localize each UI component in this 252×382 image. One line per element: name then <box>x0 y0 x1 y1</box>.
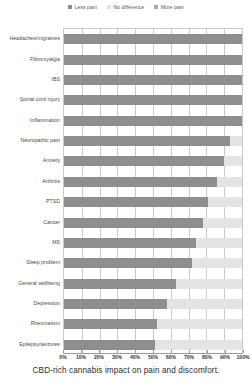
chart-figure: Less painNo differenceMore pain Headache… <box>0 0 252 382</box>
legend-item[interactable]: More pain <box>154 4 184 10</box>
x-tick-mark <box>153 350 154 353</box>
stacked-bar <box>64 55 242 65</box>
stacked-bar <box>64 197 242 207</box>
bar-row[interactable] <box>64 314 242 334</box>
x-tick-mark <box>243 350 244 353</box>
stacked-bar <box>64 177 242 187</box>
stacked-bar <box>64 258 242 268</box>
bar-segment-less-pain[interactable] <box>64 299 167 309</box>
bar-row[interactable] <box>64 70 242 90</box>
bar-segment-no-difference[interactable] <box>196 238 242 248</box>
bar-row[interactable] <box>64 212 242 232</box>
bar-row[interactable] <box>64 131 242 151</box>
bar-row[interactable] <box>64 151 242 171</box>
bar-segment-less-pain[interactable] <box>64 75 242 85</box>
bar-segment-less-pain[interactable] <box>64 34 242 44</box>
x-tick-label: 40% <box>130 354 140 360</box>
bar-segment-less-pain[interactable] <box>64 156 224 166</box>
bar-row[interactable] <box>64 49 242 69</box>
x-tick-mark <box>81 350 82 353</box>
category-label: Epilepsy/seizures <box>0 341 60 347</box>
square-swatch-icon <box>68 5 72 9</box>
stacked-bar <box>64 136 242 146</box>
bar-row[interactable] <box>64 274 242 294</box>
bar-row[interactable] <box>64 253 242 273</box>
bar-segment-less-pain[interactable] <box>64 218 203 228</box>
x-tick-mark <box>135 350 136 353</box>
category-label: Rheumatism <box>0 320 60 326</box>
bar-segment-no-difference[interactable] <box>224 156 242 166</box>
bar-segment-no-difference[interactable] <box>217 177 242 187</box>
category-label: IBS <box>0 76 60 82</box>
square-swatch-icon <box>154 5 158 9</box>
bar-segment-no-difference[interactable] <box>176 279 242 289</box>
legend-item[interactable]: Less pain <box>68 4 97 10</box>
category-label: Cancer <box>0 219 60 225</box>
stacked-bar <box>64 95 242 105</box>
bar-segment-less-pain[interactable] <box>64 238 196 248</box>
x-tick-mark <box>189 350 190 353</box>
chart-legend: Less painNo differenceMore pain <box>0 4 252 10</box>
x-axis-ticks: 0%10%20%30%40%50%60%70%80%90%100% <box>63 354 243 364</box>
category-label: Sleep problem <box>0 259 60 265</box>
stacked-bar <box>64 116 242 126</box>
x-tick-label: 60% <box>166 354 176 360</box>
bar-segment-less-pain[interactable] <box>64 116 242 126</box>
category-axis-labels: Headaches/migrainesFibromyalgiaIBSSpinal… <box>0 28 60 354</box>
square-swatch-icon <box>107 5 111 9</box>
category-label: Spinal cord injury <box>0 96 60 102</box>
stacked-bar <box>64 299 242 309</box>
bar-segment-less-pain[interactable] <box>64 319 157 329</box>
bar-segment-no-difference[interactable] <box>167 299 242 309</box>
x-tick-mark <box>225 350 226 353</box>
category-label: Inflammation <box>0 117 60 123</box>
plot-area <box>63 28 243 354</box>
bar-row[interactable] <box>64 233 242 253</box>
category-label: Neuropathic pain <box>0 137 60 143</box>
bar-segment-less-pain[interactable] <box>64 340 155 350</box>
stacked-bar <box>64 279 242 289</box>
bar-rows <box>64 29 242 353</box>
bar-segment-less-pain[interactable] <box>64 258 192 268</box>
legend-item[interactable]: No difference <box>107 4 144 10</box>
bar-segment-no-difference[interactable] <box>155 340 242 350</box>
x-tick-label: 50% <box>148 354 158 360</box>
bar-segment-less-pain[interactable] <box>64 55 242 65</box>
legend-item-label: More pain <box>161 4 184 10</box>
bar-segment-less-pain[interactable] <box>64 177 217 187</box>
bar-segment-no-difference[interactable] <box>208 197 242 207</box>
bar-row[interactable] <box>64 294 242 314</box>
x-tick-label: 10% <box>76 354 86 360</box>
bar-segment-less-pain[interactable] <box>64 136 230 146</box>
category-label: PTSD <box>0 198 60 204</box>
x-tick-mark <box>171 350 172 353</box>
x-tick-label: 100% <box>236 354 249 360</box>
x-tick-mark <box>63 350 64 353</box>
bar-segment-less-pain[interactable] <box>64 197 208 207</box>
category-label: General wellbeing <box>0 280 60 286</box>
stacked-bar <box>64 319 242 329</box>
x-tick-mark <box>207 350 208 353</box>
bar-segment-no-difference[interactable] <box>192 258 242 268</box>
bar-segment-no-difference[interactable] <box>230 136 242 146</box>
x-tick-label: 30% <box>112 354 122 360</box>
bar-row[interactable] <box>64 111 242 131</box>
figure-caption: CBD-rich cannabis impact on pain and dis… <box>0 366 252 375</box>
stacked-bar <box>64 75 242 85</box>
x-tick-mark <box>117 350 118 353</box>
bar-segment-no-difference[interactable] <box>203 218 242 228</box>
stacked-bar <box>64 340 242 350</box>
category-label: Arthritis <box>0 178 60 184</box>
x-tick-label: 80% <box>202 354 212 360</box>
bar-segment-less-pain[interactable] <box>64 95 242 105</box>
x-tick-label: 70% <box>184 354 194 360</box>
category-label: Fibromyalgia <box>0 56 60 62</box>
category-label: MS <box>0 239 60 245</box>
bar-row[interactable] <box>64 90 242 110</box>
bar-segment-less-pain[interactable] <box>64 279 176 289</box>
bar-row[interactable] <box>64 172 242 192</box>
x-tick-label: 20% <box>94 354 104 360</box>
bar-row[interactable] <box>64 29 242 49</box>
bar-segment-no-difference[interactable] <box>157 319 242 329</box>
bar-row[interactable] <box>64 192 242 212</box>
